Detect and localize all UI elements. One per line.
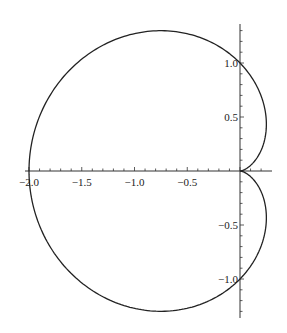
y-tick-label: −1.0: [218, 273, 238, 285]
x-tick-label: −0.5: [177, 176, 197, 188]
cardioid-plot: −2.0−1.5−1.0−0.51.00.5−0.5−1.0: [0, 0, 287, 333]
x-tick-label: −1.5: [72, 176, 92, 188]
x-tick-label: −1.0: [125, 176, 145, 188]
y-tick-label: −0.5: [218, 219, 238, 231]
y-tick-label: 0.5: [224, 111, 238, 123]
y-tick-label: 1.0: [224, 57, 238, 69]
x-tick-label: −2.0: [19, 176, 39, 188]
